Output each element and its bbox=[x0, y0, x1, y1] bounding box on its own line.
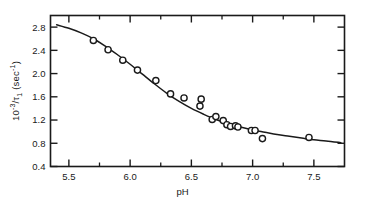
data-point-marker bbox=[105, 47, 111, 53]
y-axis-title: 10-3/τ1 (sec-1) bbox=[9, 31, 23, 151]
y-axis-title-unit-exponent: -1 bbox=[9, 64, 16, 71]
data-point-marker bbox=[167, 91, 173, 97]
x-tick-label: 5.5 bbox=[62, 171, 75, 182]
data-point-marker bbox=[198, 96, 204, 102]
fitted-curve bbox=[57, 25, 341, 143]
y-axis-title-unit-open: (sec bbox=[10, 71, 21, 93]
x-tick-label: 7.5 bbox=[307, 171, 320, 182]
data-point-marker bbox=[153, 77, 159, 83]
y-axis-tick-labels: 0.40.81.21.62.02.42.8 bbox=[32, 22, 45, 172]
y-tick-label: 1.6 bbox=[32, 91, 45, 102]
scatter-plot: 5.56.06.57.07.5 0.40.81.21.62.02.42.8 bbox=[0, 0, 365, 204]
y-axis-major-ticks bbox=[51, 27, 345, 166]
y-axis-title-unit-close: ) bbox=[10, 61, 21, 64]
y-tick-label: 0.8 bbox=[32, 138, 45, 149]
x-axis-tick-labels: 5.56.06.57.07.5 bbox=[62, 171, 320, 182]
data-point-marker bbox=[120, 57, 126, 63]
y-axis-title-subscript: 1 bbox=[16, 93, 23, 97]
y-axis-title-base: 10 bbox=[10, 110, 21, 121]
data-point-marker bbox=[134, 67, 140, 73]
data-point-marker bbox=[181, 95, 187, 101]
data-point-marker bbox=[306, 134, 312, 140]
figure-container: 10-3/τ1 (sec-1) pH 5.56.06.57.07.5 0.40.… bbox=[0, 0, 365, 204]
data-point-marker bbox=[252, 127, 258, 133]
y-tick-label: 2.8 bbox=[32, 22, 45, 33]
data-point-marker bbox=[259, 136, 265, 142]
data-point-marker bbox=[90, 37, 96, 43]
y-axis-title-mid: /τ bbox=[10, 97, 21, 104]
data-points bbox=[90, 37, 312, 141]
x-tick-label: 6.0 bbox=[124, 171, 137, 182]
data-point-marker bbox=[213, 113, 219, 119]
y-tick-label: 2.0 bbox=[32, 68, 45, 79]
x-axis-minor-ticks bbox=[100, 16, 284, 167]
curve-path bbox=[57, 25, 341, 143]
y-tick-label: 0.4 bbox=[32, 161, 45, 172]
x-axis-major-ticks bbox=[69, 16, 314, 167]
x-axis-title: pH bbox=[0, 186, 365, 197]
data-point-marker bbox=[235, 124, 241, 130]
y-axis-title-exponent: -3 bbox=[9, 103, 16, 110]
x-tick-label: 7.0 bbox=[246, 171, 259, 182]
data-point-marker bbox=[197, 103, 203, 109]
y-tick-label: 1.2 bbox=[32, 114, 45, 125]
y-tick-label: 2.4 bbox=[32, 45, 45, 56]
x-tick-label: 6.5 bbox=[185, 171, 198, 182]
